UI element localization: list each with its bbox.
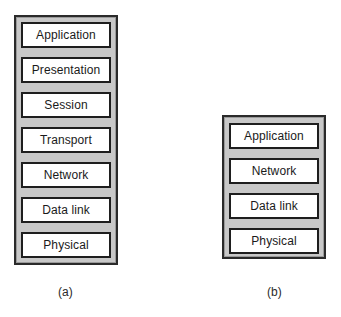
protocol-stack-b: Application Network Data link Physical bbox=[222, 115, 326, 259]
layer-network: Network bbox=[21, 162, 111, 188]
layer-transport: Transport bbox=[21, 127, 111, 153]
layer-physical: Physical bbox=[21, 232, 111, 258]
layer-presentation: Presentation bbox=[21, 57, 111, 83]
layer-application: Application bbox=[21, 22, 111, 48]
layer-data-link: Data link bbox=[21, 197, 111, 223]
caption-b: (b) bbox=[267, 285, 282, 299]
layer-physical: Physical bbox=[229, 228, 319, 254]
layer-application: Application bbox=[229, 123, 319, 149]
layer-session: Session bbox=[21, 92, 111, 118]
layer-data-link: Data link bbox=[229, 193, 319, 219]
protocol-stack-a: Application Presentation Session Transpo… bbox=[14, 15, 118, 265]
layer-network: Network bbox=[229, 158, 319, 184]
caption-a: (a) bbox=[58, 285, 73, 299]
